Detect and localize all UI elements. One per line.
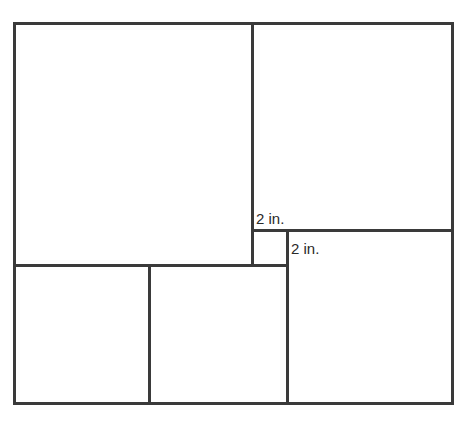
outer-left-edge	[13, 22, 16, 405]
outer-bottom-edge	[13, 402, 454, 405]
small-square-width-label: 2 in.	[256, 211, 284, 226]
outer-right-edge	[451, 22, 454, 405]
divider-bottom-right-vertical	[286, 229, 289, 405]
outer-top-edge	[13, 22, 454, 25]
small-square-height-label: 2 in.	[291, 241, 319, 256]
divider-left-horizontal	[13, 264, 289, 267]
divider-bottom-left-vertical	[148, 264, 151, 405]
divider-right-horizontal	[251, 229, 454, 232]
